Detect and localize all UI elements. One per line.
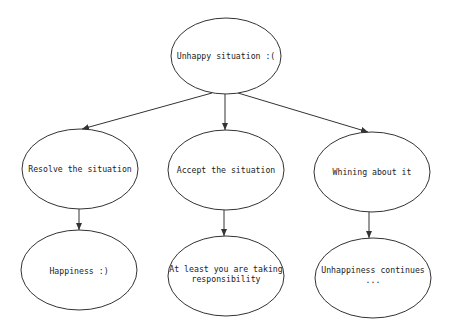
edge-root-to-resolve <box>82 93 212 129</box>
edge-root-to-whining <box>238 93 368 132</box>
node-label-whining: Whining about it <box>333 167 412 177</box>
node-label-accept: Accept the situation <box>177 165 276 175</box>
node-label-unhappiness: Unhappiness continues ... <box>321 265 425 285</box>
node-label-root: Unhappy situation :( <box>177 51 276 61</box>
node-label-resolve: Resolve the situation <box>28 164 132 174</box>
node-label-responsibility: At least you are taking responsibility <box>169 264 282 284</box>
node-label-happiness: Happiness :) <box>49 266 108 276</box>
